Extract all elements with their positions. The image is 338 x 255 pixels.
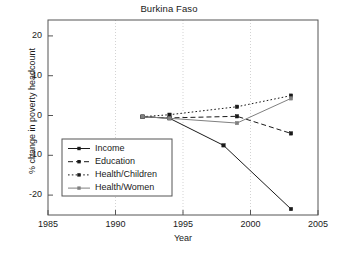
data-point-marker — [235, 115, 238, 118]
data-point-marker — [289, 207, 292, 210]
data-point-marker — [222, 144, 225, 147]
y-tick-label: 20 — [12, 30, 42, 40]
x-tick-label: 1985 — [28, 219, 68, 229]
legend-swatch-marker — [77, 186, 80, 189]
legend-swatch-marker — [77, 173, 80, 176]
x-tick-label: 1995 — [163, 219, 203, 229]
legend-item-health-women[interactable]: Health/Women — [95, 182, 154, 192]
data-point-marker — [289, 97, 292, 100]
y-tick-label: 10 — [12, 70, 42, 80]
data-point-marker — [235, 121, 238, 124]
y-tick-label: 0 — [12, 110, 42, 120]
series-line — [143, 98, 292, 123]
y-tick-label: -10 — [12, 149, 42, 159]
data-point-marker — [168, 113, 171, 116]
y-tick-label: -20 — [12, 189, 42, 199]
x-tick-label: 2005 — [298, 219, 338, 229]
series-line — [143, 96, 292, 117]
plot-area — [0, 0, 338, 255]
x-tick-label: 2000 — [231, 219, 271, 229]
legend-item-education[interactable]: Education — [95, 156, 135, 166]
x-tick-label: 1990 — [96, 219, 136, 229]
chart-figure: Burkina Faso % change in poverty headcou… — [0, 0, 338, 255]
data-point-marker — [141, 115, 144, 118]
legend-swatch-marker — [77, 160, 80, 163]
legend-item-health-children[interactable]: Health/Children — [95, 169, 157, 179]
data-point-marker — [235, 105, 238, 108]
series-line — [143, 116, 292, 133]
legend-item-income[interactable]: Income — [95, 143, 125, 153]
data-point-marker — [289, 132, 292, 135]
legend-swatch-marker — [77, 147, 80, 150]
data-point-marker — [168, 117, 171, 120]
